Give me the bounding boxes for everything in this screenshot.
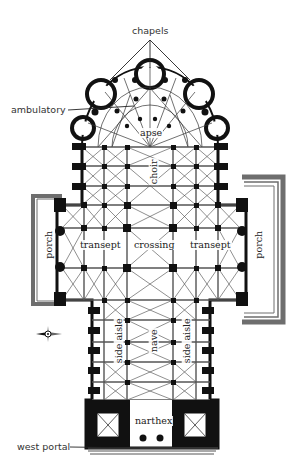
label-narthex: narthex — [134, 416, 173, 426]
label-side-aisle-left: side aisle — [114, 317, 124, 364]
label-nave: nave — [149, 328, 159, 353]
label-ambulatory: ambulatory — [11, 105, 66, 115]
label-apse: apse — [139, 128, 163, 138]
label-porch-left: porch — [44, 230, 54, 260]
label-crossing: crossing — [133, 240, 176, 250]
label-chapels: chapels — [132, 26, 169, 36]
label-side-aisle-right: side aisle — [182, 317, 192, 364]
label-choir: choir — [149, 158, 159, 185]
label-porch-right: porch — [254, 230, 264, 260]
label-transept-left: transept — [79, 240, 122, 250]
vault-ribs — [62, 147, 240, 420]
label-transept-right: transept — [189, 240, 232, 250]
west-front — [86, 400, 218, 454]
compass-rose-icon — [36, 326, 62, 342]
label-west-portal: west portal — [17, 442, 70, 452]
